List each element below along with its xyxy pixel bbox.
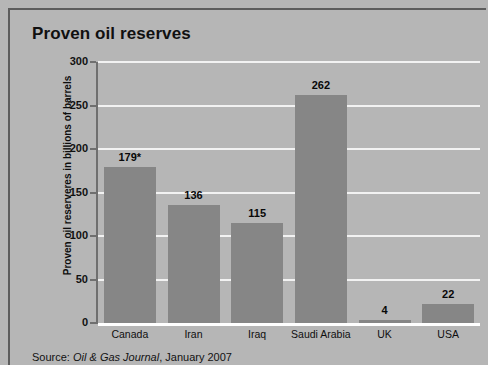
y-tick-label: 200: [26, 143, 88, 154]
bar: [168, 205, 220, 323]
page-title: Proven oil reserves: [32, 24, 191, 44]
bar: [231, 223, 283, 323]
bar: [422, 304, 474, 323]
y-tick-label: 0: [26, 317, 88, 328]
category-label: USA: [403, 329, 488, 340]
bar-value-label: 115: [217, 208, 297, 219]
y-tick-label: 100: [26, 230, 88, 241]
bar-value-label: 4: [345, 305, 425, 316]
y-tick-label: 250: [26, 100, 88, 111]
bar: [295, 95, 347, 323]
y-tick-mark: [90, 235, 96, 237]
bar: [104, 167, 156, 323]
y-tick-label: 300: [26, 56, 88, 67]
axis-baseline: [98, 323, 480, 326]
y-tick-label: 150: [26, 187, 88, 198]
gridline: [98, 61, 480, 63]
y-tick-mark: [90, 61, 96, 63]
source-note: Source: Oil & Gas Journal, January 2007: [32, 351, 232, 363]
bar-value-label: 179*: [90, 152, 170, 163]
bar-value-label: 262: [281, 80, 361, 91]
y-tick-mark: [90, 105, 96, 107]
y-tick-mark: [90, 279, 96, 281]
source-publication: Oil & Gas Journal: [73, 351, 159, 363]
y-tick-mark: [90, 148, 96, 150]
gridline: [98, 148, 480, 150]
gridline: [98, 105, 480, 107]
source-date: , January 2007: [159, 351, 232, 363]
figure-frame: Proven oil reserves Proven oil reservere…: [8, 8, 486, 365]
y-tick-mark: [90, 192, 96, 194]
source-label: Source:: [32, 351, 70, 363]
y-tick-label: 50: [26, 274, 88, 285]
y-tick-mark: [90, 322, 96, 324]
bar-value-label: 136: [154, 190, 234, 201]
bar: [359, 320, 411, 323]
bar-value-label: 22: [408, 289, 488, 300]
